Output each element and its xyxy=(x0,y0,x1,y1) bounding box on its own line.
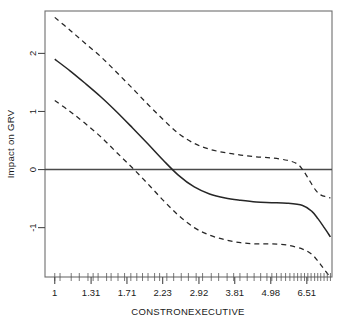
x-tick-label: 1.31 xyxy=(82,287,101,298)
y-tick-label: 0 xyxy=(27,167,38,172)
y-axis-ticks xyxy=(38,53,45,227)
x-tick-label: 3.81 xyxy=(225,287,244,298)
y-axis-tick-labels: 210-1 xyxy=(27,51,38,232)
y-tick-label: -1 xyxy=(27,223,38,231)
chart-figure: 11.311.712.232.923.814.986.51 210-1 CONS… xyxy=(0,0,345,322)
plot-panel xyxy=(45,11,332,277)
y-axis-title: Impact on GRV xyxy=(5,109,16,178)
chart-canvas: 11.311.712.232.923.814.986.51 210-1 CONS… xyxy=(0,0,345,322)
x-tick-label: 1 xyxy=(52,287,57,298)
x-tick-label: 4.98 xyxy=(262,287,281,298)
y-tick-label: 2 xyxy=(27,51,38,56)
x-axis-title: CONSTRONEXECUTIVE xyxy=(131,306,244,317)
x-tick-label: 6.51 xyxy=(298,287,317,298)
y-tick-label: 1 xyxy=(27,109,38,114)
x-axis-ticks xyxy=(55,277,307,284)
plot-background xyxy=(45,11,332,277)
x-tick-label: 2.23 xyxy=(153,287,172,298)
x-axis-tick-labels: 11.311.712.232.923.814.986.51 xyxy=(52,287,316,298)
x-tick-label: 2.92 xyxy=(190,287,209,298)
x-tick-label: 1.71 xyxy=(118,287,137,298)
